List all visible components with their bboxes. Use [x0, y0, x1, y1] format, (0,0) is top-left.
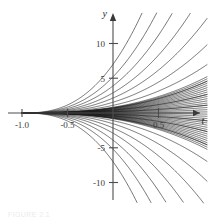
x-tick-label--1.0: -1.0: [15, 120, 30, 130]
solution-curves-group: [22, 13, 207, 203]
y-axis-label: y: [102, 8, 108, 19]
y-tick-label-5: 5: [101, 74, 106, 84]
solution-curve: [22, 113, 166, 202]
solution-curve: [22, 18, 207, 113]
y-tick-label--10: -10: [93, 178, 105, 188]
solution-curve: [22, 65, 207, 113]
solution-curve: [22, 13, 156, 113]
solution-curve: [22, 113, 207, 181]
plot-area: -1.0 -0.5 0.5 10 5 -5 -10 y t: [0, 0, 215, 217]
solution-curve: [22, 13, 142, 113]
y-tick-label-10: 10: [96, 39, 106, 49]
t-axis-label: t: [202, 115, 205, 126]
solution-curve: [22, 45, 207, 113]
y-axis-arrow-icon: [110, 13, 116, 21]
solution-curve: [22, 14, 172, 113]
solution-curve: [22, 113, 207, 161]
x-tick-label--0.5: -0.5: [60, 120, 75, 130]
y-tick-label--5: -5: [98, 143, 106, 153]
solution-curve: [22, 113, 137, 202]
figure-caption: FIGURE 2.1: [8, 211, 50, 217]
figure-container: -1.0 -0.5 0.5 10 5 -5 -10 y t FIGURE 2.1: [0, 0, 215, 217]
solution-curve: [22, 113, 151, 203]
t-axis-arrow-icon: [193, 110, 200, 116]
x-tick-label-0.5: 0.5: [153, 120, 165, 130]
